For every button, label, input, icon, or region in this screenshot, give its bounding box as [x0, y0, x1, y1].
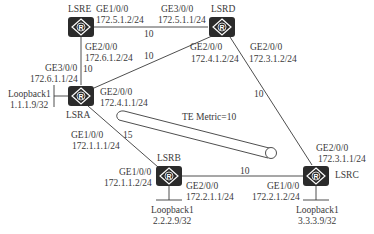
- lsre-ge2-ip: 172.6.1.2/24: [85, 53, 133, 64]
- svg-text:R: R: [166, 173, 171, 180]
- lsre-ge1-name: GE1/0/0: [96, 4, 128, 15]
- router-lsrb[interactable]: R: [156, 166, 182, 186]
- lsrd-ge3-ip: 172.5.1.1/24: [158, 15, 206, 26]
- router-icon: R: [156, 166, 182, 186]
- router-lsrc[interactable]: R: [303, 166, 329, 186]
- cost-e-a: 10: [83, 64, 93, 75]
- router-lsre[interactable]: R: [68, 17, 94, 37]
- cost-a-b: 15: [123, 130, 133, 141]
- te-tunnel-label: TE Metric=10: [182, 112, 236, 123]
- lsra-loopback-name: Loopback1: [8, 89, 51, 100]
- lsrc-ge2-ip: 172.3.1.1/24: [318, 154, 366, 165]
- lsrd-ge2-c-name: GE2/0/0: [250, 42, 282, 53]
- router-label-lsre: LSRE: [68, 4, 91, 15]
- lsrb-ge2-name: GE2/0/0: [186, 181, 218, 192]
- lsrb-ge1-ip: 172.1.1.2/24: [104, 178, 152, 189]
- cost-d-c: 10: [254, 89, 264, 100]
- svg-text:R: R: [313, 173, 318, 180]
- lsra-ge2-ip: 172.4.1.1/24: [100, 98, 148, 109]
- lsre-ge1-ip: 172.5.1.2/24: [96, 15, 144, 26]
- lsrd-ge2-a-ip: 172.4.1.2/24: [191, 54, 239, 65]
- lsrd-ge3-name: GE3/0/0: [161, 4, 193, 15]
- router-label-lsrd: LSRD: [211, 4, 235, 15]
- router-label-lsrc: LSRC: [335, 170, 359, 181]
- lsra-ge1-name: GE1/0/0: [71, 130, 103, 141]
- router-icon: R: [68, 86, 94, 106]
- lsra-ge2-name: GE2/0/0: [100, 87, 132, 98]
- lsra-loopback-ip: 1.1.1.9/32: [10, 100, 48, 111]
- lsrc-loopback-name: Loopback1: [296, 205, 339, 216]
- router-lsra[interactable]: R: [68, 86, 94, 106]
- lsrc-ge1-name: GE1/0/0: [267, 181, 299, 192]
- router-icon: R: [209, 17, 235, 37]
- lsrb-loopback-ip: 2.2.2.9/32: [153, 216, 191, 227]
- router-icon: R: [303, 166, 329, 186]
- lsrd-ge2-a-name: GE2/0/0: [190, 42, 222, 53]
- lsra-ge3-name: GE3/0/0: [45, 63, 77, 74]
- lsra-ge1-ip: 172.1.1.1/24: [72, 141, 120, 152]
- lsrb-loopback-name: Loopback1: [151, 205, 194, 216]
- cost-e-d: 10: [144, 29, 154, 40]
- svg-text:R: R: [78, 93, 83, 100]
- svg-text:R: R: [78, 24, 83, 31]
- router-label-lsra: LSRA: [66, 110, 90, 121]
- network-topology-diagram: R R R R R LSRE LSRD LSRA LSRB LSRC: [0, 0, 374, 234]
- lsrb-ge2-ip: 172.2.1.1/24: [186, 192, 234, 203]
- lsre-ge2-name: GE2/0/0: [85, 42, 117, 53]
- svg-text:R: R: [219, 24, 224, 31]
- router-label-lsrb: LSRB: [157, 153, 181, 164]
- lsrb-ge1-name: GE1/0/0: [119, 167, 151, 178]
- lsrc-loopback-ip: 3.3.3.9/32: [298, 216, 336, 227]
- cost-b-c: 10: [240, 166, 250, 177]
- lsrc-ge2-name: GE2/0/0: [316, 143, 348, 154]
- lsrc-ge1-ip: 172.2.1.2/24: [252, 192, 300, 203]
- router-lsrd[interactable]: R: [209, 17, 235, 37]
- router-icon: R: [68, 17, 94, 37]
- lsra-ge3-ip: 172.6.1.1/24: [30, 74, 78, 85]
- lsrd-ge2-c-ip: 172.3.1.2/24: [249, 54, 297, 65]
- cost-a-d: 10: [144, 51, 154, 62]
